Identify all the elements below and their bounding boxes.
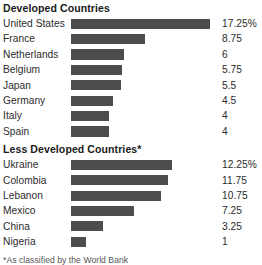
bar-row-label: Germany (3, 93, 45, 108)
bar-row-value: 4 (222, 124, 228, 139)
bar (71, 96, 113, 106)
bar-row: France8.75 (3, 31, 262, 46)
bar (71, 80, 121, 90)
bar-row: China3.25 (3, 219, 262, 234)
bar-row: Colombia11.75 (3, 173, 262, 188)
bar-row-value: 7.25 (222, 203, 242, 218)
bar-row-value: 4.5 (222, 93, 236, 108)
bar-row-value: 4 (222, 108, 228, 123)
bar-row: Lebanon10.75 (3, 188, 262, 203)
bar-row-label: Spain (3, 124, 29, 139)
bar-row-value: 5.75 (222, 62, 242, 77)
bar-row-label: Colombia (3, 173, 46, 188)
bar (71, 111, 109, 121)
chart-section-less-developed: Less Developed Countries* Ukraine12.25%C… (3, 143, 262, 249)
bar (71, 65, 122, 75)
bar-row-label: Belgium (3, 62, 40, 77)
bar-row-label: United States (3, 16, 65, 31)
bar-row-label: China (3, 219, 30, 234)
bar-row-value: 5.5 (222, 78, 236, 93)
bar-row-label: Ukraine (3, 157, 38, 172)
bar-row-label: France (3, 31, 35, 46)
bar-row-label: Nigeria (3, 234, 36, 249)
chart-footnote: *As classified by the World Bank (3, 255, 128, 265)
bar (71, 126, 109, 136)
bar-row: Italy4 (3, 108, 262, 123)
bar-row: Japan5.5 (3, 78, 262, 93)
section-title-less-developed: Less Developed Countries* (3, 143, 262, 156)
section-title-developed: Developed Countries (3, 2, 262, 15)
bar-row: Nigeria1 (3, 234, 262, 249)
bar-row-value: 12.25% (222, 157, 257, 172)
bar (71, 191, 161, 201)
bar-row-value: 1 (222, 234, 228, 249)
bar (71, 237, 86, 247)
bar-row-label: Netherlands (3, 47, 58, 62)
bar-row: United States17.25% (3, 16, 262, 31)
bar (71, 175, 168, 185)
bar-row-value: 11.75 (222, 173, 247, 188)
bar-row-value: 10.75 (222, 188, 248, 203)
bar-row-label: Mexico (3, 203, 36, 218)
bar-row-value: 3.25 (222, 219, 242, 234)
bar-row-label: Lebanon (3, 188, 43, 203)
bar-row-value: 17.25% (222, 16, 257, 31)
bar-track (71, 108, 262, 123)
bar-rows-developed: United States17.25%France8.75Netherlands… (3, 16, 262, 139)
bar (71, 221, 103, 231)
bar-row-value: 8.75 (222, 31, 242, 46)
bar-row: Germany4.5 (3, 93, 262, 108)
bar-row: Belgium5.75 (3, 62, 262, 77)
bar-track (71, 234, 262, 249)
bar-chart: Developed Countries United States17.25%F… (0, 2, 262, 265)
bar-track (71, 124, 262, 139)
bar-row: Spain4 (3, 124, 262, 139)
bar-row-label: Italy (3, 108, 22, 123)
bar (71, 160, 172, 170)
bar-row: Ukraine12.25% (3, 157, 262, 172)
bar-track (71, 47, 262, 62)
bar-row: Mexico7.25 (3, 203, 262, 218)
bar-rows-less-developed: Ukraine12.25%Colombia11.75Lebanon10.75Me… (3, 157, 262, 249)
bar-row-label: Japan (3, 78, 31, 93)
bar (71, 19, 210, 29)
bar-row-value: 6 (222, 47, 228, 62)
bar-row: Netherlands6 (3, 47, 262, 62)
bar (71, 49, 124, 59)
chart-section-developed: Developed Countries United States17.25%F… (3, 2, 262, 139)
bar (71, 206, 134, 216)
bar (71, 34, 145, 44)
